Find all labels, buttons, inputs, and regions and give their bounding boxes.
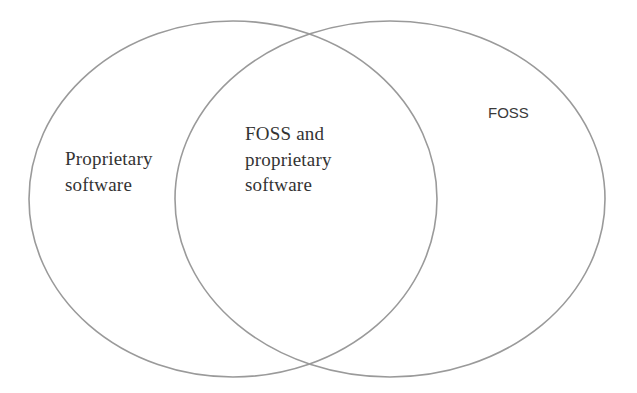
foss-set xyxy=(175,21,605,377)
label-line: proprietary xyxy=(245,147,332,173)
proprietary-software-label: Proprietary software xyxy=(65,146,153,197)
label-line: software xyxy=(245,172,332,198)
label-line: FOSS xyxy=(488,104,529,122)
label-line: software xyxy=(65,172,153,198)
proprietary-software-set xyxy=(29,21,437,377)
foss-label: FOSS xyxy=(488,104,529,122)
label-line: Proprietary xyxy=(65,146,153,172)
intersection-label: FOSS and proprietary software xyxy=(245,121,332,198)
label-line: FOSS and xyxy=(245,121,332,147)
